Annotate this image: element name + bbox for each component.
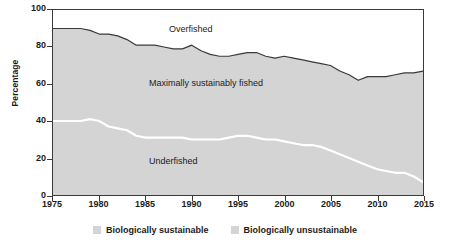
chart-svg: [53, 10, 423, 195]
y-tick-label-80: 80: [0, 40, 46, 50]
underfished-boundary-line: [53, 119, 423, 182]
legend-swatch-icon: [231, 226, 239, 234]
legend-label: Biologically sustainable: [106, 225, 209, 235]
x-tick-mark-2015: [424, 196, 425, 201]
x-tick-mark-1975: [52, 196, 53, 201]
y-tick-label-60: 60: [0, 78, 46, 88]
annotation-overfished: Overfished: [169, 24, 213, 34]
x-tick-mark-2000: [285, 196, 286, 201]
x-tick-mark-1990: [192, 196, 193, 201]
legend-item-2[interactable]: Biologically unsustainable: [231, 225, 358, 235]
x-tick-mark-1980: [99, 196, 100, 201]
overfished-area: [53, 10, 423, 80]
annotation-underfished: Underfished: [149, 156, 198, 166]
chart-figure: Percentage 100806040200 Overfished Maxim…: [0, 0, 450, 244]
legend-item-1[interactable]: Biologically sustainable: [93, 225, 209, 235]
x-tick-mark-1995: [238, 196, 239, 201]
y-tick-label-100: 100: [0, 3, 46, 13]
legend-label: Biologically unsustainable: [244, 225, 358, 235]
x-tick-mark-1985: [145, 196, 146, 201]
chart-legend: Biologically sustainableBiologically uns…: [0, 223, 450, 237]
legend-swatch-icon: [93, 226, 101, 234]
x-tick-mark-2010: [378, 196, 379, 201]
y-tick-label-40: 40: [0, 115, 46, 125]
source-caption: [6, 238, 446, 244]
annotation-maximally-sustainably-fished: Maximally sustainably fished: [149, 78, 263, 88]
x-tick-mark-2005: [331, 196, 332, 201]
plot-area: Overfished Maximally sustainably fished …: [52, 9, 424, 196]
y-tick-label-20: 20: [0, 153, 46, 163]
